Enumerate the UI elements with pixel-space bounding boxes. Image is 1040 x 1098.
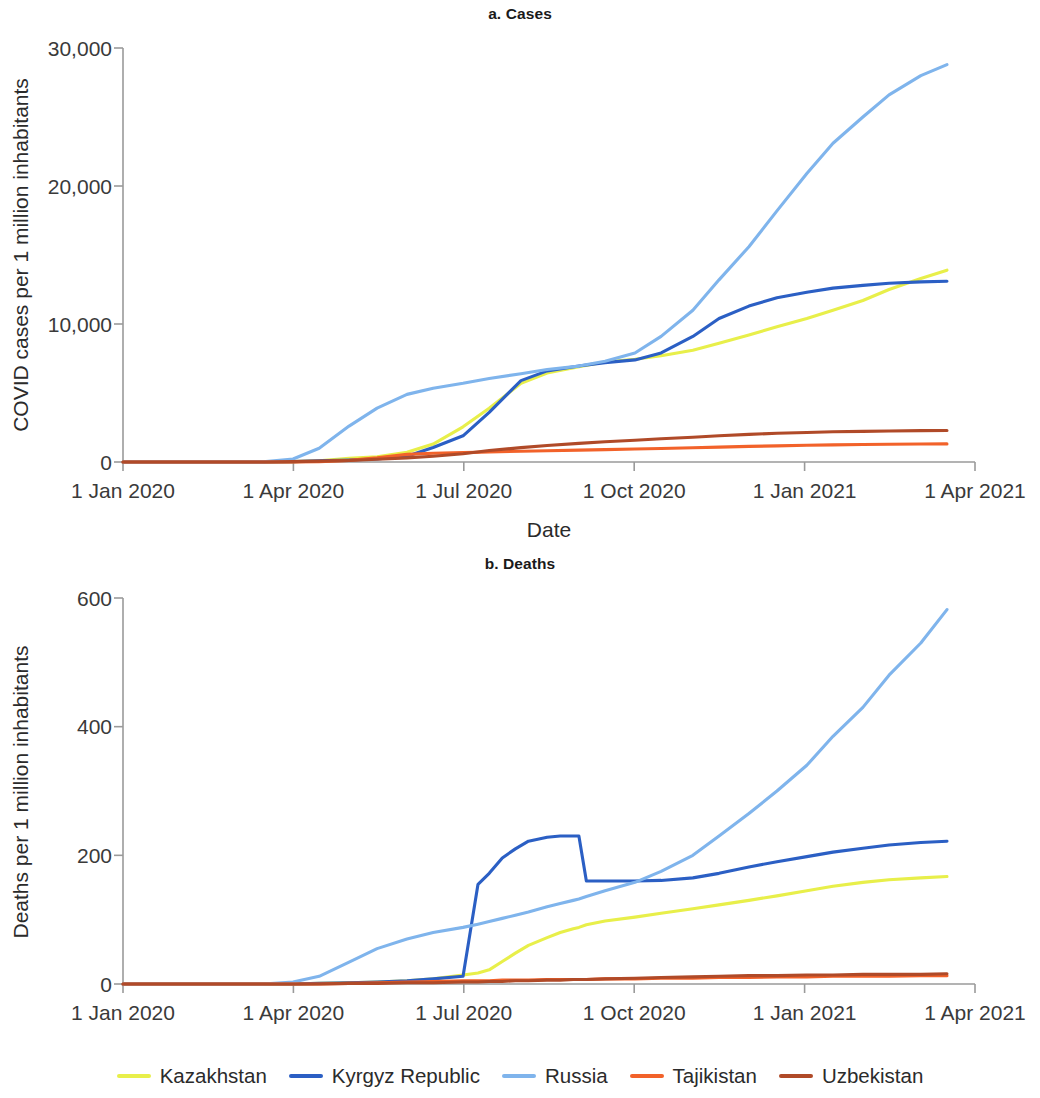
y-tick-label: 200 bbox=[77, 844, 112, 867]
x-tick-label: 1 Jan 2021 bbox=[753, 479, 857, 502]
legend-item-tajikistan[interactable]: Tajikistan bbox=[630, 1064, 757, 1088]
figure-root: a. Cases 010,00020,00030,0001 Jan 20201 … bbox=[0, 0, 1040, 1098]
x-tick-label: 1 Jan 2020 bbox=[71, 479, 175, 502]
x-tick-label: 1 Apr 2020 bbox=[243, 479, 345, 502]
x-tick-label: 1 Jul 2020 bbox=[415, 1001, 512, 1024]
legend-swatch-icon bbox=[502, 1074, 536, 1078]
legend-label: Russia bbox=[545, 1064, 608, 1088]
y-tick-label: 30,000 bbox=[48, 37, 112, 60]
x-tick-label: 1 Oct 2020 bbox=[583, 1001, 686, 1024]
legend-swatch-icon bbox=[779, 1074, 813, 1078]
legend-item-uzbekistan[interactable]: Uzbekistan bbox=[779, 1064, 923, 1088]
x-axis-title: Date bbox=[527, 518, 571, 541]
y-tick-label: 600 bbox=[77, 587, 112, 610]
y-tick-label: 0 bbox=[100, 451, 112, 474]
y-axis-title: Deaths per 1 million inhabitants bbox=[9, 646, 32, 939]
chart-panel-cases: a. Cases 010,00020,00030,0001 Jan 20201 … bbox=[0, 0, 1040, 545]
series-line-kazakhstan bbox=[123, 877, 947, 984]
x-tick-label: 1 Jul 2020 bbox=[415, 479, 512, 502]
series-line-russia bbox=[123, 65, 947, 462]
x-tick-label: 1 Apr 2020 bbox=[243, 1001, 345, 1024]
cases-plot-svg: 010,00020,00030,0001 Jan 20201 Apr 20201… bbox=[0, 0, 1040, 545]
legend-label: Kyrgyz Republic bbox=[332, 1064, 480, 1088]
y-tick-label: 20,000 bbox=[48, 175, 112, 198]
legend-swatch-icon bbox=[117, 1074, 151, 1078]
x-tick-label: 1 Jan 2021 bbox=[753, 1001, 857, 1024]
chart-panel-deaths: b. Deaths 02004006001 Jan 20201 Apr 2020… bbox=[0, 552, 1040, 1042]
legend-item-kazakhstan[interactable]: Kazakhstan bbox=[117, 1064, 267, 1088]
x-tick-label: 1 Apr 2021 bbox=[924, 1001, 1026, 1024]
legend-swatch-icon bbox=[289, 1074, 323, 1078]
legend-item-russia[interactable]: Russia bbox=[502, 1064, 608, 1088]
legend-label: Kazakhstan bbox=[160, 1064, 267, 1088]
legend-swatch-icon bbox=[630, 1074, 664, 1078]
legend-label: Uzbekistan bbox=[822, 1064, 923, 1088]
chart-legend: KazakhstanKyrgyz RepublicRussiaTajikista… bbox=[0, 1064, 1040, 1088]
x-tick-label: 1 Oct 2020 bbox=[583, 479, 686, 502]
deaths-plot-svg: 02004006001 Jan 20201 Apr 20201 Jul 2020… bbox=[0, 552, 1040, 1042]
series-line-russia bbox=[123, 610, 947, 984]
legend-item-kyrgyz-republic[interactable]: Kyrgyz Republic bbox=[289, 1064, 480, 1088]
y-tick-label: 0 bbox=[100, 973, 112, 996]
x-tick-label: 1 Apr 2021 bbox=[924, 479, 1026, 502]
x-axis-title: Date bbox=[527, 1040, 571, 1042]
legend-label: Tajikistan bbox=[673, 1064, 757, 1088]
y-tick-label: 400 bbox=[77, 715, 112, 738]
x-tick-label: 1 Jan 2020 bbox=[71, 1001, 175, 1024]
y-tick-label: 10,000 bbox=[48, 313, 112, 336]
y-axis-title: COVID cases per 1 million inhabitants bbox=[9, 78, 32, 432]
